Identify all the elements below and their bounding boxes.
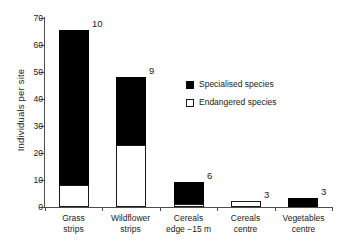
y-tick-label: 40 <box>34 95 43 104</box>
legend-label: Specialised species <box>199 80 274 89</box>
bar-segment-endangered <box>231 201 261 207</box>
x-category-label: Wildflower strips <box>102 213 159 234</box>
bar-stack <box>288 198 318 207</box>
bar-value-label: 9 <box>149 66 154 76</box>
y-tick-label: 10 <box>34 176 43 185</box>
x-axis-line <box>44 207 332 208</box>
legend-swatch-filled-square-icon <box>186 81 194 89</box>
x-category-label: Cereals centre <box>217 213 274 234</box>
chart-legend: Specialised species Endangered species <box>186 80 277 116</box>
x-tick-mark <box>332 207 333 211</box>
bar-value-label: 6 <box>207 171 212 181</box>
legend-label: Endangered species <box>199 98 277 107</box>
bar-segment-specialised <box>288 198 318 207</box>
legend-item-specialised: Specialised species <box>186 80 277 89</box>
bar-segment-endangered <box>59 185 89 207</box>
y-axis-line <box>44 17 45 208</box>
bar-value-label: 10 <box>92 19 103 29</box>
bar-stack <box>59 30 89 207</box>
x-tick-mark <box>102 207 103 211</box>
x-tick-mark <box>217 207 218 211</box>
legend-swatch-open-square-icon <box>186 99 194 107</box>
y-tick-label: 20 <box>34 149 43 158</box>
y-tick-label: 60 <box>34 41 43 50</box>
bar-stack <box>116 77 146 207</box>
bar-value-label: 3 <box>264 190 269 200</box>
bar-segment-specialised <box>174 182 204 204</box>
x-category-label: Grass strips <box>45 213 102 234</box>
bar-segment-specialised <box>116 77 146 145</box>
legend-item-endangered: Endangered species <box>186 98 277 107</box>
bar-value-label: 3 <box>321 187 326 197</box>
y-axis-title: Individuals per site <box>16 55 26 165</box>
x-category-label: Cereals edge −15 m <box>160 213 217 234</box>
x-tick-mark <box>45 207 46 211</box>
y-tick-label: 70 <box>34 14 43 23</box>
y-tick-label: 50 <box>34 68 43 77</box>
bar-segment-endangered <box>116 145 146 207</box>
x-category-label: Vegetables centre <box>275 213 332 234</box>
y-tick-label: 0 <box>38 203 43 212</box>
y-tick-label: 30 <box>34 122 43 131</box>
bar-segment-specialised <box>59 30 89 185</box>
bar-stack <box>174 182 204 207</box>
x-tick-mark <box>275 207 276 211</box>
bar-segment-endangered <box>174 204 204 207</box>
bar-stack <box>231 201 261 207</box>
x-tick-mark <box>160 207 161 211</box>
bar-chart: Individuals per site 010203040506070 109… <box>0 0 339 251</box>
